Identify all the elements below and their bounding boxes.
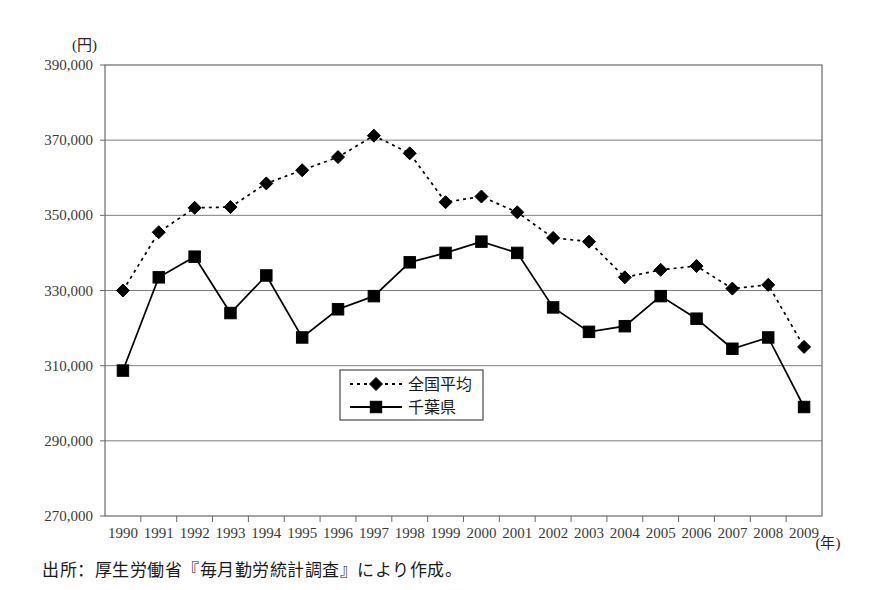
- x-tick-label: 1992: [180, 525, 210, 541]
- y-tick-label: 330,000: [44, 283, 93, 299]
- data-point-square: [583, 326, 594, 337]
- x-tick-label: 2005: [646, 525, 676, 541]
- x-tick-label: 2004: [610, 525, 641, 541]
- x-axis-unit-text: (年): [816, 535, 841, 552]
- y-tick-label: 290,000: [44, 433, 93, 449]
- legend-label-chiba: 千葉県: [408, 399, 456, 416]
- data-point-square: [117, 365, 128, 376]
- x-tick-label: 1997: [359, 525, 390, 541]
- data-point-square: [261, 270, 272, 281]
- x-tick-label: 2002: [538, 525, 568, 541]
- line-chart: (円) 390,000370,000350,000330,000310,0002…: [0, 0, 878, 590]
- x-tick-label: 1994: [251, 525, 282, 541]
- data-point-square: [798, 401, 809, 412]
- data-point-square: [225, 307, 236, 318]
- y-tick-label: 270,000: [44, 508, 93, 524]
- data-point-square: [512, 247, 523, 258]
- source-note: 出所：厚生労働省『毎月勤労統計調査』により作成。: [42, 556, 462, 581]
- y-axis-unit-text: (円): [72, 37, 97, 54]
- data-point-square: [691, 313, 702, 324]
- y-axis-unit-label: (円): [72, 37, 97, 54]
- x-tick-label: 1998: [395, 525, 425, 541]
- data-point-square: [547, 302, 558, 313]
- data-point-square: [763, 332, 774, 343]
- data-point-square: [655, 290, 666, 301]
- x-tick-label: 2008: [753, 525, 783, 541]
- x-tick-label: 1999: [431, 525, 461, 541]
- x-tick-label: 2006: [682, 525, 713, 541]
- x-tick-label: 2007: [717, 525, 748, 541]
- chart-background: [0, 0, 878, 590]
- data-point-square: [619, 320, 630, 331]
- y-tick-label: 390,000: [44, 57, 93, 73]
- data-point-square: [189, 251, 200, 262]
- x-axis-unit-label: (年): [816, 535, 841, 552]
- x-tick-label: 2001: [502, 525, 532, 541]
- data-point-square: [332, 304, 343, 315]
- data-point-square: [153, 272, 164, 283]
- x-tick-label: 1996: [323, 525, 354, 541]
- data-point-square: [476, 236, 487, 247]
- data-point-square: [727, 343, 738, 354]
- y-tick-label: 350,000: [44, 207, 93, 223]
- data-point-square: [440, 247, 451, 258]
- x-tick-label: 2003: [574, 525, 604, 541]
- x-tick-label: 1990: [108, 525, 138, 541]
- data-point-square: [404, 257, 415, 268]
- y-tick-label: 370,000: [44, 132, 93, 148]
- x-tick-label: 1993: [215, 525, 245, 541]
- y-tick-label: 310,000: [44, 358, 93, 374]
- x-tick-label: 1995: [287, 525, 317, 541]
- x-tick-label: 1991: [144, 525, 174, 541]
- data-point-square: [370, 401, 381, 412]
- x-tick-label: 2000: [466, 525, 496, 541]
- data-point-square: [296, 332, 307, 343]
- legend-label-national-average: 全国平均: [408, 376, 472, 393]
- data-point-square: [368, 290, 379, 301]
- chart-legend: 全国平均千葉県: [340, 370, 483, 420]
